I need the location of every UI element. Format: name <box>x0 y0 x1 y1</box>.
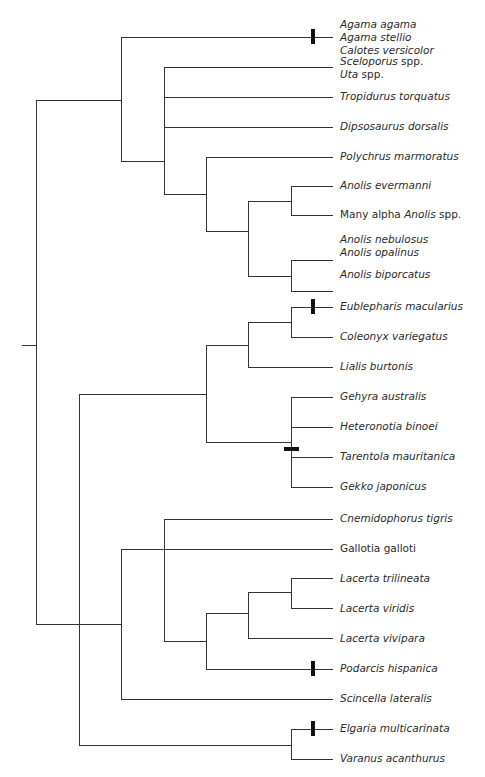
taxon-name-line: Elgaria multicarinata <box>340 722 450 735</box>
taxon-label-polychrus: Polychrus marmoratus <box>340 150 459 163</box>
taxon-label-gehyra: Gehyra australis <box>340 390 426 403</box>
taxon-name-line: Eublepharis macularius <box>340 300 463 313</box>
taxon-name-line: Lacerta trilineata <box>340 572 430 585</box>
taxon-name-line: Coleonyx variegatus <box>340 330 448 343</box>
taxon-name-line: Gekko japonicus <box>340 480 426 493</box>
taxon-name-line: Uta spp. <box>340 68 423 81</box>
taxon-name-line: Gehyra australis <box>340 390 426 403</box>
taxon-label-gallotia: Gallotia galloti <box>340 542 416 555</box>
taxon-name-line: Anolis evermanni <box>340 179 431 192</box>
taxon-label-podarcis: Podarcis hispanica <box>340 662 438 675</box>
taxon-name-line: Varanus acanthurus <box>340 752 445 765</box>
taxon-label-elgaria: Elgaria multicarinata <box>340 722 450 735</box>
taxon-label-tropidurus: Tropidurus torquatus <box>340 90 450 103</box>
taxon-label-scincella: Scincella lateralis <box>340 692 432 705</box>
taxon-name-line: Many alpha Anolis spp. <box>340 208 461 221</box>
taxon-label-anolis-evermanni: Anolis evermanni <box>340 179 431 192</box>
taxon-label-lacerta-trilineata: Lacerta trilineata <box>340 572 430 585</box>
taxon-label-gekko: Gekko japonicus <box>340 480 426 493</box>
taxon-label-varanus: Varanus acanthurus <box>340 752 445 765</box>
taxon-label-lacerta-vivipara: Lacerta vivipara <box>340 632 425 645</box>
taxon-label-agama: Agama agamaAgama stellioCalotes versicol… <box>340 18 434 57</box>
taxon-name-line: Lialis burtonis <box>340 360 413 373</box>
taxon-name-line: Polychrus marmoratus <box>340 150 459 163</box>
taxon-label-eublepharis: Eublepharis macularius <box>340 300 463 313</box>
taxon-name-line: Anolis nebulosus <box>340 233 428 246</box>
taxon-name-line: Anolis opalinus <box>340 246 428 259</box>
taxon-name-line: Anolis biporcatus <box>340 268 430 281</box>
taxon-name-line: Agama agama <box>340 18 434 31</box>
taxon-labels: Agama agamaAgama stellioCalotes versicol… <box>0 0 485 777</box>
taxon-name-line: Scincella lateralis <box>340 692 432 705</box>
taxon-name-line: Tropidurus torquatus <box>340 90 450 103</box>
taxon-label-lialis: Lialis burtonis <box>340 360 413 373</box>
taxon-label-lacerta-viridis: Lacerta viridis <box>340 602 414 615</box>
taxon-label-cnemidophorus: Cnemidophorus tigris <box>340 512 453 525</box>
taxon-name-line: Cnemidophorus tigris <box>340 512 453 525</box>
taxon-name-line: Podarcis hispanica <box>340 662 438 675</box>
taxon-label-anolis-biporcatus: Anolis biporcatus <box>340 268 430 281</box>
taxon-name-line: Agama stellio <box>340 31 434 44</box>
taxon-name-line: Dipsosaurus dorsalis <box>340 120 449 133</box>
taxon-label-coleonyx: Coleonyx variegatus <box>340 330 448 343</box>
taxon-label-anolis-nebulosus: Anolis nebulosusAnolis opalinus <box>340 233 428 259</box>
taxon-label-alpha-anolis: Many alpha Anolis spp. <box>340 208 461 221</box>
taxon-name-line: Lacerta viridis <box>340 602 414 615</box>
taxon-label-heteronotia: Heteronotia binoei <box>340 420 438 433</box>
taxon-label-tarentola: Tarentola mauritanica <box>340 450 455 463</box>
taxon-name-line: Heteronotia binoei <box>340 420 438 433</box>
taxon-label-dipsosaurus: Dipsosaurus dorsalis <box>340 120 449 133</box>
taxon-name-line: Lacerta vivipara <box>340 632 425 645</box>
taxon-name-line: Gallotia galloti <box>340 542 416 555</box>
taxon-name-line: Sceloporus spp. <box>340 55 423 68</box>
taxon-name-line: Tarentola mauritanica <box>340 450 455 463</box>
taxon-label-sceloporus: Sceloporus spp.Uta spp. <box>340 55 423 81</box>
